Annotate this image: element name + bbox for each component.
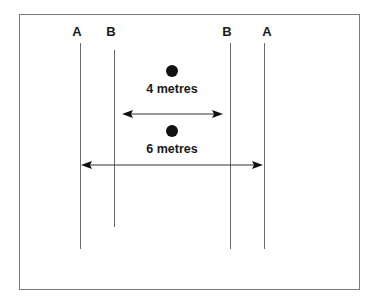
double-arrow-inner — [122, 110, 223, 118]
double-arrow-outer — [81, 161, 263, 169]
arrows-layer — [0, 0, 374, 308]
